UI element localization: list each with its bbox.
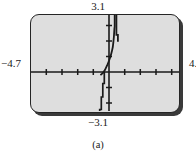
x-max-label: 4.7 — [189, 58, 196, 69]
x-min-label: −4.7 — [1, 58, 21, 69]
figure-caption: (a) — [0, 139, 196, 150]
graphing-calculator-screen — [30, 14, 180, 113]
y-min-label: −3.1 — [0, 117, 196, 128]
graph-svg — [31, 15, 179, 111]
calculator-screen-figure: 3.1 −3.1 −4.7 4.7 (a) — [0, 0, 196, 162]
y-max-label: 3.1 — [0, 1, 196, 12]
screen-plot-area — [31, 15, 179, 112]
curve-branch-descending — [100, 72, 105, 111]
curve-branch-increasing — [100, 15, 114, 75]
curve-branch-top-right — [116, 15, 118, 42]
